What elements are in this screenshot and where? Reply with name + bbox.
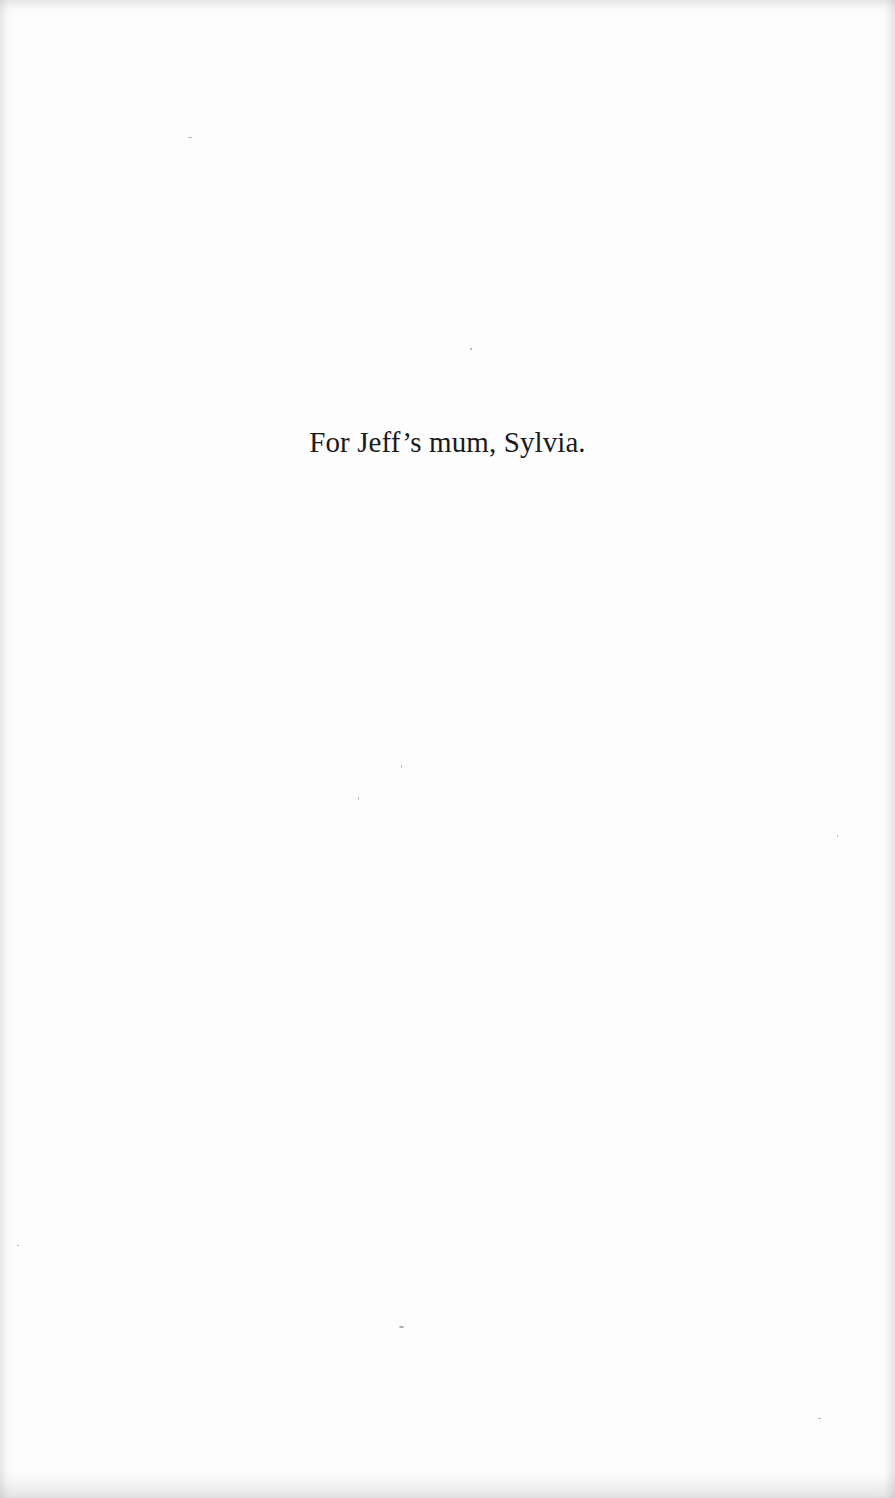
dedication-text: For Jeff’s mum, Sylvia. [0,422,895,462]
scan-speck [837,835,838,837]
page-edge-shadow-left [0,0,8,1498]
scan-speck [470,348,472,350]
scan-speck [818,1418,821,1419]
page-edge-shadow-bottom [0,1472,895,1498]
page-edge-shadow-top [0,0,895,10]
page-edge-shadow-right [885,0,895,1498]
scan-speck [399,1326,404,1328]
scan-speck [188,137,192,138]
scan-speck [401,765,402,768]
scan-speck [358,797,359,800]
scan-speck [17,1245,19,1246]
book-page: For Jeff’s mum, Sylvia. [0,0,895,1498]
